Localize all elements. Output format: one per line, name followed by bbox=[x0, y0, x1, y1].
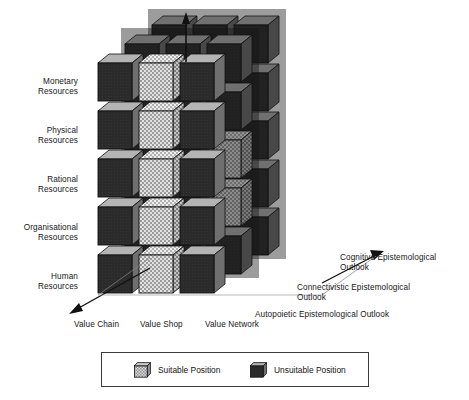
cube-cell bbox=[180, 246, 225, 293]
cube-front-face bbox=[180, 63, 214, 101]
cube-cell bbox=[98, 150, 143, 197]
y-label-line2: Resources bbox=[8, 185, 78, 195]
y-label-line2: Resources bbox=[0, 233, 78, 243]
cube-matrix-3d bbox=[0, 0, 469, 400]
unsuitable-cube-icon bbox=[250, 362, 267, 378]
depth-axis-label-autopoietic: Autopoietic Epistemological Outlook bbox=[255, 310, 389, 320]
y-axis-label-human: Human Resources bbox=[8, 272, 78, 292]
cube-cell bbox=[98, 198, 143, 245]
depth-label-line2: Outlook bbox=[340, 263, 436, 273]
y-axis-label-rational: Rational Resources bbox=[8, 175, 78, 195]
y-axis-label-organisational: Organisational Resources bbox=[0, 223, 78, 243]
cube-front-face bbox=[180, 255, 214, 293]
y-label-line1: Monetary bbox=[8, 77, 78, 87]
y-label-line1: Human bbox=[8, 272, 78, 282]
cube-cell bbox=[98, 246, 143, 293]
legend-item-suitable: Suitable Position bbox=[134, 362, 220, 378]
cube-front-face bbox=[139, 255, 173, 293]
x-axis-label-value-chain: Value Chain bbox=[74, 320, 119, 330]
cube-cell bbox=[139, 198, 184, 245]
cube-front-face bbox=[180, 207, 214, 245]
cube-cell bbox=[98, 102, 143, 149]
cube-cell bbox=[139, 246, 184, 293]
suitable-cube-icon bbox=[134, 362, 151, 378]
cube-front-face bbox=[139, 159, 173, 197]
legend-label-suitable: Suitable Position bbox=[158, 365, 220, 375]
cube-cell bbox=[98, 54, 143, 101]
y-axis-label-physical: Physical Resources bbox=[8, 126, 78, 146]
cube-front-face bbox=[98, 111, 132, 149]
x-axis-label-value-shop: Value Shop bbox=[140, 320, 183, 330]
cube-front-face bbox=[180, 111, 214, 149]
y-label-line2: Resources bbox=[8, 136, 78, 146]
cube-front-face bbox=[98, 207, 132, 245]
legend: Suitable Position Unsuitable Position bbox=[101, 352, 369, 387]
cube-cell bbox=[139, 54, 184, 101]
cube-front-face bbox=[98, 159, 132, 197]
cube-front-face bbox=[180, 159, 214, 197]
depth-label-line1: Connectivistic Epistemological bbox=[297, 283, 410, 293]
x-axis-label-value-network: Value Network bbox=[205, 320, 259, 330]
cube-front-face bbox=[139, 63, 173, 101]
cube-cell bbox=[180, 150, 225, 197]
depth-axis-label-cognitive: Cognitive Epistemological Outlook bbox=[340, 253, 436, 273]
cube-cell bbox=[180, 198, 225, 245]
cube-front-face bbox=[98, 63, 132, 101]
cube-cell bbox=[139, 102, 184, 149]
cube-cell bbox=[180, 102, 225, 149]
cube-front-face bbox=[139, 111, 173, 149]
cube-cell bbox=[139, 150, 184, 197]
cube-front-face bbox=[139, 207, 173, 245]
depth-axis-label-connectivistic: Connectivistic Epistemological Outlook bbox=[297, 283, 410, 303]
y-label-line1: Organisational bbox=[0, 223, 78, 233]
y-label-line1: Physical bbox=[8, 126, 78, 136]
legend-label-unsuitable: Unsuitable Position bbox=[274, 365, 346, 375]
legend-item-unsuitable: Unsuitable Position bbox=[250, 362, 346, 378]
y-label-line2: Resources bbox=[8, 87, 78, 97]
y-label-line1: Rational bbox=[8, 175, 78, 185]
depth-label-line1: Cognitive Epistemological bbox=[340, 253, 436, 263]
y-label-line2: Resources bbox=[8, 282, 78, 292]
depth-label-line2: Outlook bbox=[297, 293, 410, 303]
figure-canvas: Monetary Resources Physical Resources Ra… bbox=[0, 0, 469, 400]
y-axis-label-monetary: Monetary Resources bbox=[8, 77, 78, 97]
